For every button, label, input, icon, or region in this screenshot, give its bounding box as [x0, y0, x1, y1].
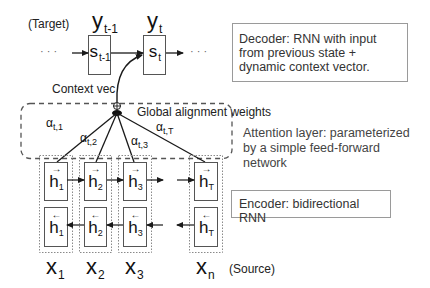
forward-state-3: →h3 — [124, 165, 147, 192]
backward-state-3: ←h3 — [124, 211, 147, 238]
decoder-state-prev: st-1 — [88, 42, 112, 63]
encoder-note: Encoder: bidirectional RNN — [231, 190, 391, 218]
decoder-note: Decoder: RNN with input from previous st… — [232, 23, 408, 82]
target-label: (Target) — [28, 17, 69, 31]
source-label: (Source) — [229, 262, 275, 276]
backward-state-2: ←h2 — [84, 211, 107, 238]
forward-state-T: →hT — [195, 165, 218, 192]
context-vector-arrow — [117, 55, 142, 102]
decoder-output-current: yt — [147, 8, 162, 36]
decoder-ellipsis-left: · · · — [40, 45, 57, 57]
alignment-weight-T: αt,T — [156, 120, 173, 136]
backward-state-T: ←hT — [195, 211, 218, 238]
decoder-state-current: st — [143, 42, 167, 63]
decoder-ellipsis-right: · · · — [190, 45, 207, 57]
source-input-2: x2 — [86, 254, 105, 282]
alignment-weight-3: αt,3 — [131, 134, 148, 150]
alignment-line-2 — [96, 113, 117, 162]
source-input-1: x1 — [46, 254, 65, 282]
global-alignment-label: Global alignment weights — [137, 105, 271, 119]
alignment-weight-1: αt,1 — [46, 116, 63, 132]
context-vector-label: Context vec — [52, 82, 115, 96]
source-input-3: x3 — [125, 254, 144, 282]
source-input-n: xn — [196, 254, 215, 282]
forward-state-1: →h1 — [45, 165, 68, 192]
forward-state-2: →h2 — [84, 165, 107, 192]
decoder-output-prev: yt-1 — [92, 8, 118, 36]
alignment-weight-2: αt,2 — [80, 131, 97, 147]
attention-note: Attention layer: parameterized by a simp… — [243, 126, 423, 171]
backward-state-1: ←h1 — [45, 211, 68, 238]
